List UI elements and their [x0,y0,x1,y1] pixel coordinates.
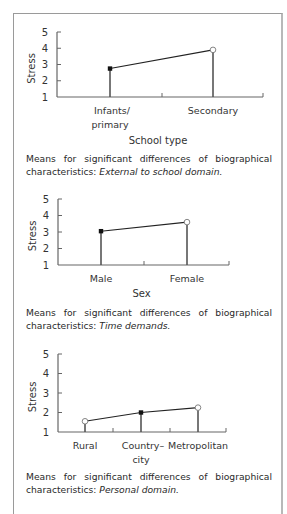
open-circle-marker [195,405,201,411]
category-label: Country– [122,440,165,451]
caption-tail: characteristics: [26,484,99,495]
category-label: city [132,454,150,465]
caption-domain: Personal domain. [99,484,179,495]
filled-square-marker [139,410,143,414]
y-tick-label: 2 [43,407,49,418]
open-circle-marker [82,418,88,424]
chart-residence: 12345StressRuralCountry–cityMetropolitan [0,0,287,480]
y-tick-label: 3 [43,388,49,399]
caption-residence: Means for significant differences of bio… [26,470,272,496]
category-label: Metropolitan [168,440,228,451]
y-axis-label: Stress [27,382,38,413]
category-label: Rural [73,440,98,451]
caption-lead: Means for significant differences of bio… [26,470,272,483]
y-tick-label: 5 [43,349,49,360]
y-tick-label: 4 [43,368,49,379]
y-tick-label: 1 [43,427,49,438]
